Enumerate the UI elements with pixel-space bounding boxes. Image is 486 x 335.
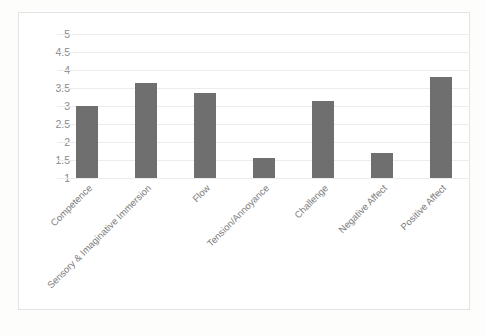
x-axis-category-label: Negative Affect bbox=[336, 183, 388, 235]
bar bbox=[253, 158, 275, 178]
bar bbox=[430, 77, 452, 178]
x-axis-category-label: Sensory & Imaginative Immersion bbox=[45, 183, 152, 290]
x-axis-category-label: Tension/Annoyance bbox=[205, 183, 270, 248]
bar-series bbox=[57, 34, 470, 178]
bar bbox=[76, 106, 98, 178]
x-axis-category-label: Flow bbox=[190, 183, 211, 204]
bar bbox=[312, 101, 334, 178]
x-axis-category-labels: CompetenceSensory & Imaginative Immersio… bbox=[57, 179, 470, 299]
bar bbox=[371, 153, 393, 178]
x-axis-category-label: Challenge bbox=[292, 183, 329, 220]
page-background: 11.522.533.544.55 CompetenceSensory & Im… bbox=[0, 0, 486, 335]
chart-frame: 11.522.533.544.55 CompetenceSensory & Im… bbox=[18, 12, 470, 310]
bar bbox=[135, 83, 157, 178]
x-axis-category-label: Competence bbox=[48, 183, 93, 228]
x-axis-category-label: Positive Affect bbox=[398, 183, 447, 232]
bar bbox=[194, 93, 216, 178]
